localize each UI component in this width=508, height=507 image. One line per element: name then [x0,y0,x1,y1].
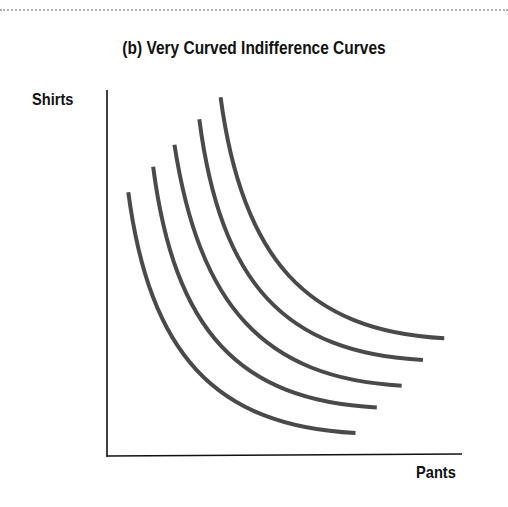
x-axis [107,454,462,456]
indifference-curve-5 [221,97,445,338]
chart-plot-area [0,0,508,507]
